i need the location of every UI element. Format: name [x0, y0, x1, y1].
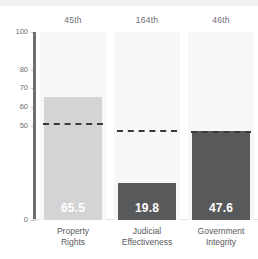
reference-line-property-rights [43, 123, 104, 125]
bar-value-government-integrity: 47.6 [192, 201, 250, 215]
bar-government-integrity[interactable]: 47.6 [192, 131, 250, 220]
y-axis-tick-label-100: 100 [15, 27, 28, 37]
y-axis-tick-50: 50 [0, 121, 36, 131]
y-axis-tick-70: 70 [0, 83, 36, 93]
reference-line-judicial-effectiveness [117, 130, 178, 132]
y-axis-tick-mark [31, 220, 36, 221]
bar-judicial-effectiveness[interactable]: 19.8 [118, 183, 176, 220]
bar-property-rights[interactable]: 65.5 [44, 97, 102, 220]
reference-line-government-integrity [191, 131, 252, 133]
category-label-row: Property Rights Judicial Effectiveness G… [36, 226, 258, 248]
bars-layer: 65.5 19.8 47.6 [36, 32, 258, 220]
bar-slot-property-rights: 65.5 [36, 32, 110, 220]
top-band [0, 0, 258, 6]
rank-label-government-integrity: 46th [184, 12, 258, 28]
bar-slot-judicial-effectiveness: 19.8 [110, 32, 184, 220]
bar-slot-government-integrity: 47.6 [184, 32, 258, 220]
chart-figure: 45th 164th 46th 100 80 70 60 50 0 [0, 0, 258, 259]
y-axis-tick-label-60: 60 [20, 102, 28, 112]
category-label-line: Rights [37, 237, 109, 248]
y-axis-tick-label-80: 80 [20, 65, 28, 75]
y-axis-tick-60: 60 [0, 102, 36, 112]
category-label-line: Government [185, 226, 257, 237]
y-axis-tick-100: 100 [0, 27, 36, 37]
plot-area: 65.5 19.8 47.6 [36, 32, 258, 220]
category-label-line: Property [37, 226, 109, 237]
y-axis-tick-label-50: 50 [20, 121, 28, 131]
rank-header-row: 45th 164th 46th [36, 12, 258, 28]
bar-value-property-rights: 65.5 [44, 201, 102, 215]
y-axis-tick-label-70: 70 [20, 83, 28, 93]
category-label-line: Integrity [185, 237, 257, 248]
rank-label-property-rights: 45th [36, 12, 110, 28]
y-axis-tick-0: 0 [0, 215, 36, 225]
category-label-property-rights: Property Rights [36, 226, 110, 248]
y-axis-tick-label-0: 0 [24, 215, 28, 225]
rank-label-judicial-effectiveness: 164th [110, 12, 184, 28]
bar-value-judicial-effectiveness: 19.8 [118, 201, 176, 215]
category-label-government-integrity: Government Integrity [184, 226, 258, 248]
category-label-line: Effectiveness [111, 237, 183, 248]
category-label-line: Judicial [111, 226, 183, 237]
category-label-judicial-effectiveness: Judicial Effectiveness [110, 226, 184, 248]
y-axis-tick-80: 80 [0, 65, 36, 75]
